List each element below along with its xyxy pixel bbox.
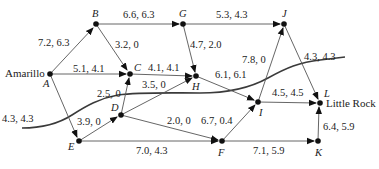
- node-label-J: J: [282, 9, 287, 20]
- edge-label-H-I: 6.1, 6.1: [215, 70, 247, 81]
- edge-label-A-B: 7.2, 6.3: [38, 38, 70, 49]
- edge-label-E-D: 3.9, 0: [77, 117, 101, 128]
- node-label-A: A: [43, 79, 49, 90]
- edge-label-D-C: 2.5, 0: [97, 89, 121, 100]
- edge-D-C: [121, 78, 129, 115]
- node-label-I: I: [259, 108, 263, 119]
- node-K: [315, 138, 321, 144]
- edge-label-G-J: 5.3, 4.3: [216, 10, 248, 21]
- node-label-E: E: [68, 142, 74, 153]
- edge-I-L: [258, 102, 316, 103]
- node-F: [219, 138, 225, 144]
- node-label-F: F: [218, 148, 224, 159]
- edge-label-A-C: 5.1, 4.1: [73, 64, 105, 75]
- edge-label-B-C: 3.2, 0: [115, 40, 139, 51]
- node-J: [281, 21, 287, 27]
- node-H: [193, 73, 199, 79]
- city-label-source: Amarillo: [5, 68, 45, 79]
- network-diagram: [0, 0, 379, 169]
- edge-K-L: [318, 107, 319, 141]
- node-label-K: K: [315, 148, 322, 159]
- edge-label-B-G: 6.6, 6.3: [123, 10, 155, 21]
- node-C: [127, 71, 133, 77]
- edge-C-H: [130, 74, 192, 76]
- node-label-C: C: [134, 63, 141, 74]
- node-A: [47, 71, 53, 77]
- node-G: [180, 21, 186, 27]
- node-label-G: G: [179, 9, 187, 20]
- city-label-sink: Little Rock: [326, 98, 376, 109]
- node-I: [255, 99, 261, 105]
- node-label-D: D: [111, 103, 119, 114]
- edge-label-A-E: 4.3, 4.3: [2, 114, 34, 125]
- edge-label-E-F: 7.0, 4.3: [136, 146, 168, 157]
- edge-label-F-K: 7.1, 5.9: [253, 146, 285, 157]
- edge-label-F-I: 6.7, 0.4: [201, 116, 233, 127]
- edge-A-E: [50, 74, 77, 137]
- edge-label-D-F: 2.0, 0: [167, 116, 191, 127]
- node-L: [317, 100, 323, 106]
- edge-label-D-H: 3.5, 0: [142, 80, 166, 91]
- edge-label-J-L: 4.3, 4.3: [304, 52, 336, 63]
- node-D: [118, 112, 124, 118]
- node-E: [76, 138, 82, 144]
- edge-label-G-H: 4.7, 2.0: [190, 40, 222, 51]
- node-label-H: H: [192, 82, 200, 93]
- edge-label-I-J: 7.8, 0: [242, 55, 266, 66]
- node-label-B: B: [92, 9, 98, 20]
- node-B: [93, 21, 99, 27]
- edge-label-C-H: 4.1, 4.1: [148, 63, 180, 74]
- edge-label-K-L: 6.4, 5.9: [323, 122, 355, 133]
- edge-label-I-L: 4.5, 4.5: [272, 88, 304, 99]
